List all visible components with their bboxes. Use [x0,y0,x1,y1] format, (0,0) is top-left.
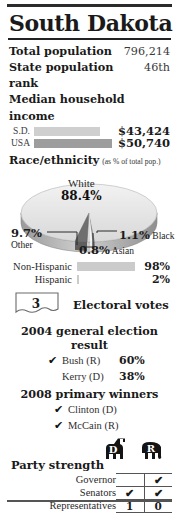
pie-label-other: 9.7% Other [11,227,42,251]
table-row: Governor ✔ [7,473,172,486]
hispanic-row-non-hispanic: Non-Hispanic 98% [9,260,170,273]
race-pie-chart: White 88.4% 9.7% Other 1.1% Black 0.8% A… [7,167,172,259]
candidate-percent: 38% [119,369,145,384]
candidate-name: Kerry (D) [57,370,119,385]
stat-row-total-population: Total population 796,214 [7,44,172,60]
median-income-chart: S.D. $43,424 USA $50,740 [7,126,172,149]
winner-check-icon: ✔ [41,353,57,368]
primary-winners-list: ✔ Clinton (D) ✔ McCain (R) [7,402,172,433]
party-strength-table: Governor ✔ Senators ✔ ✔ Representatives … [7,473,172,513]
candidate-name: McCain (R) [63,419,125,434]
income-bar-fill [34,139,112,148]
row-label: Senators [7,486,116,499]
donkey-letter: D [109,444,118,455]
pie-label-black-name: Black [152,231,174,241]
donkey-icon: D [104,438,132,462]
hispanic-bar-value: 2% [152,273,170,286]
stat-label: State population rank [9,60,144,92]
hispanic-bar-fill [77,262,135,271]
pie-label-asian: 0.8% Asian [79,243,134,257]
stat-row-population-rank: State population rank 46th [7,60,172,92]
cell-democrat: ✔ [116,486,144,499]
hispanic-bar-value: 98% [144,260,170,273]
pie-label-black: 1.1% Black [119,228,174,242]
stat-value: 796,214 [124,44,170,60]
state-outline-icon: 3 [15,292,63,319]
winner-check-icon: ✔ [47,402,63,417]
elephant-letter: R [147,443,156,454]
hispanic-row-hispanic: Hispanic 2% [9,273,170,286]
income-bar-value: $50,740 [114,136,170,150]
title-underline [8,38,171,40]
income-bar-label: S.D. [9,126,34,136]
winner-check-icon: ✔ [47,418,63,433]
race-ethnicity-heading: Race/ethnicity (as % of total pop.) [7,150,172,167]
pie-label-white: White 88.4% [61,177,102,203]
income-bar-row-sd: S.D. $43,424 [9,126,170,137]
general-election-heading: 2004 general election result [7,321,172,353]
income-bar-label: USA [9,138,34,148]
stat-value: 46th [144,60,170,76]
hispanic-bar-label: Non-Hispanic [9,261,77,272]
income-bar-row-usa: USA $50,740 [9,138,170,149]
hispanic-chart: Non-Hispanic 98% Hispanic 2% [7,260,172,286]
race-heading-note: (as % of total pop.) [102,157,160,166]
pie-label-asian-name: Asian [112,246,134,256]
elephant-icon: R [139,438,167,462]
primary-winner-row: ✔ Clinton (D) [47,402,172,418]
cell-republican: ✔ [144,473,172,486]
infographic-card: South Dakota Total population 796,214 St… [0,4,179,505]
pie-label-other-name: Other [11,240,33,250]
cell-democrat [116,473,144,486]
row-label: Governor [7,473,116,486]
cell-republican: ✔ [144,486,172,499]
page-title: South Dakota [7,7,172,36]
pie-label-other-value: 9.7% [11,226,42,240]
pie-label-white-value: 88.4% [61,189,102,203]
pie-label-white-name: White [68,177,95,189]
party-icons: D R [104,438,167,462]
table-row: Senators ✔ ✔ [7,486,172,499]
income-bar-fill [34,127,100,136]
pie-label-black-value: 1.1% [119,228,150,242]
race-heading-text: Race/ethnicity [9,153,99,167]
primary-winners-heading: 2008 primary winners [7,384,172,402]
primary-winner-row: ✔ McCain (R) [47,418,172,434]
candidate-name: Bush (R) [57,354,119,369]
electoral-votes-count: 3 [15,297,57,311]
electoral-votes-label: Electoral votes [73,298,169,312]
bottom-rule [7,500,172,502]
candidate-name: Clinton (D) [63,403,125,418]
electoral-votes-section: 3 Electoral votes [7,286,172,321]
election-result-row: ✔ Bush (R) 60% [41,353,172,369]
election-result-row: Kerry (D) 38% [41,369,172,385]
hispanic-bar-fill [77,275,79,284]
general-election-results: ✔ Bush (R) 60% Kerry (D) 38% [7,353,172,384]
median-income-heading: Median household income [7,91,172,123]
stat-label: Total population [9,44,112,60]
candidate-percent: 60% [119,353,145,368]
hispanic-bar-label: Hispanic [9,274,77,285]
pie-label-asian-value: 0.8% [79,243,110,257]
